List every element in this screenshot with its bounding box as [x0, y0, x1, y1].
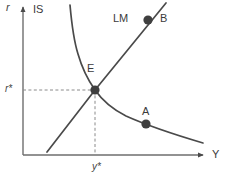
y-axis-label: r: [6, 2, 10, 13]
lm-curve-label: LM: [113, 13, 128, 24]
lm-curve: [47, 3, 166, 152]
x-axis-tick-label-y-star: y*: [92, 162, 101, 172]
point-marker-b: [143, 15, 152, 24]
point-label-b: B: [160, 13, 167, 24]
point-label-a: A: [142, 106, 149, 117]
caption-partial: [62, 172, 172, 181]
y-axis-tick-label-r-star: r*: [5, 84, 12, 94]
is-curve-label: IS: [33, 4, 43, 15]
point-marker-e: [90, 85, 99, 94]
point-marker-a: [141, 119, 150, 128]
x-axis-label: Y: [212, 149, 219, 160]
is-curve: [70, 5, 203, 143]
is-lm-diagram-figure: r Y r* y* IS LM E B A: [0, 0, 230, 181]
point-label-e: E: [87, 63, 94, 74]
chart-canvas: [0, 0, 230, 181]
